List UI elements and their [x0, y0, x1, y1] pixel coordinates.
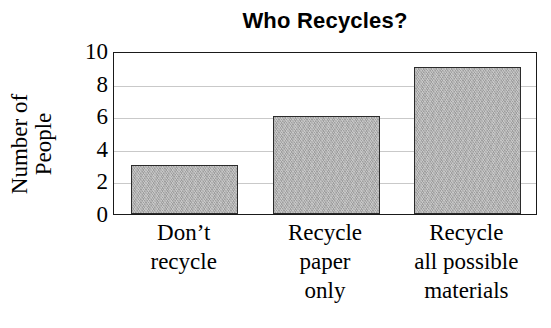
chart-title: Who Recycles?: [113, 8, 537, 34]
plot-area: [113, 52, 537, 215]
bar: [414, 67, 521, 214]
y-axis-tick-label: 0: [66, 203, 108, 226]
y-axis-tick-mark: [113, 86, 114, 87]
x-axis-category-label: Recyclepaperonly: [254, 218, 395, 305]
y-axis-tick-label: 2: [66, 170, 108, 193]
y-axis-tick-mark: [113, 151, 114, 152]
bar-chart-figure: Who Recycles? Number of People 0246810 D…: [0, 0, 551, 328]
y-axis-tick-mark: [113, 53, 114, 54]
y-axis-tick-mark: [113, 183, 114, 184]
y-axis-title-line-1: Number of: [8, 94, 32, 194]
x-axis-category-labels: Don’trecycleRecyclepaperonlyRecycleall p…: [113, 218, 537, 324]
x-axis-category-label-line: Don’t: [113, 218, 254, 247]
y-axis-tick-mark: [113, 118, 114, 119]
x-axis-category-label: Don’trecycle: [113, 218, 254, 276]
x-axis-category-label-line: materials: [396, 276, 537, 305]
y-axis-title-line-2: People: [32, 94, 56, 194]
y-axis-tick-label: 6: [66, 105, 108, 128]
x-axis-category-label-line: paper: [254, 247, 395, 276]
x-axis-category-label: Recycleall possiblematerials: [396, 218, 537, 305]
x-axis-category-label-line: Recycle: [254, 218, 395, 247]
x-axis-category-label-line: Recycle: [396, 218, 537, 247]
y-axis-tick-label: 4: [66, 138, 108, 161]
y-axis-title: Number of People: [9, 49, 55, 239]
y-axis-tick-labels: 0246810: [66, 52, 108, 215]
y-axis-tick-label: 10: [66, 40, 108, 63]
bar: [273, 116, 380, 214]
bar: [131, 165, 238, 214]
x-axis-category-label-line: all possible: [396, 247, 537, 276]
x-axis-category-label-line: only: [254, 276, 395, 305]
x-axis-category-label-line: recycle: [113, 247, 254, 276]
y-axis-tick-label: 8: [66, 73, 108, 96]
